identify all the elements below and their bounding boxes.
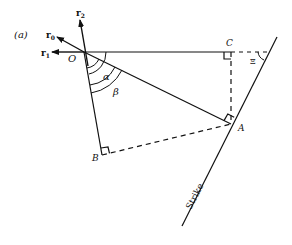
r2-label: r2 [76, 8, 85, 19]
label-beta: β [112, 86, 119, 97]
line-BA-dashed [102, 124, 231, 155]
label-C: C [226, 38, 233, 48]
arc-inner [87, 59, 99, 68]
panel-label: (a) [14, 29, 28, 40]
line-OB [84, 52, 102, 155]
label-dip: Ξ [250, 57, 256, 66]
geometry-diagram: (a) r1 r0 r2 O C A B α β Ξ Strike [0, 0, 292, 245]
r0-label: r0 [46, 30, 55, 41]
r0-arrow [57, 37, 84, 52]
arc-dip [258, 52, 264, 60]
label-O: O [68, 53, 76, 64]
r2-arrow [80, 20, 88, 66]
strike-label: Strike [184, 182, 206, 211]
right-angle-B [101, 147, 110, 153]
right-angle-A [224, 114, 234, 121]
label-alpha: α [103, 71, 110, 82]
label-B: B [91, 153, 99, 163]
r1-label: r1 [41, 48, 50, 59]
label-A: A [237, 123, 245, 133]
right-angle-C [224, 52, 231, 59]
